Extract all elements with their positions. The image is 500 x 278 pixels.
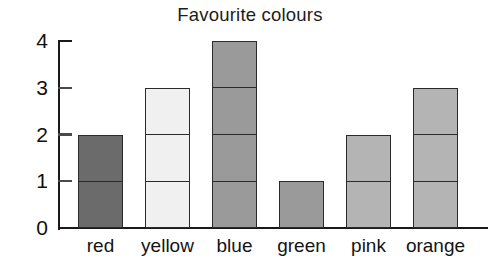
y-axis-tick-3 (58, 87, 72, 89)
chart-title: Favourite colours (0, 4, 500, 26)
bar-segment (414, 87, 457, 134)
bar-orange (413, 88, 458, 228)
bar-segment (414, 134, 457, 181)
x-axis-label-red: red (64, 236, 137, 255)
x-axis-label-green: green (265, 236, 338, 255)
bar-segment (280, 181, 323, 228)
bar-segment (213, 181, 256, 228)
x-axis-label-blue: blue (198, 236, 271, 255)
bar-segment (146, 181, 189, 228)
y-axis-tick-4 (58, 40, 72, 42)
bar-segment (146, 134, 189, 181)
bar-segment (347, 181, 390, 228)
x-axis-label-orange: orange (399, 236, 472, 255)
bar-segment (146, 87, 189, 134)
x-axis-label-pink: pink (332, 236, 405, 255)
y-axis-tick-2 (58, 133, 72, 135)
y-axis-label-3: 3 (14, 77, 48, 98)
bar-pink (346, 135, 391, 229)
bar-blue (212, 41, 257, 228)
x-axis-label-yellow: yellow (131, 236, 204, 255)
bar-segment (79, 134, 122, 181)
bar-red (78, 135, 123, 229)
bar-segment (414, 181, 457, 228)
y-axis-tick-1 (58, 180, 72, 182)
bar-segment (347, 134, 390, 181)
bar-green (279, 181, 324, 228)
bar-yellow (145, 88, 190, 228)
bar-segment (213, 87, 256, 134)
bar-segment (213, 40, 256, 87)
y-axis-label-2: 2 (14, 124, 48, 145)
y-axis-label-1: 1 (14, 170, 48, 191)
y-axis-label-4: 4 (14, 30, 48, 51)
bar-chart: Favourite colours 01234 redyellowbluegre… (0, 0, 500, 278)
bar-segment (79, 181, 122, 228)
y-axis-label-0: 0 (14, 217, 48, 238)
bar-segment (213, 134, 256, 181)
